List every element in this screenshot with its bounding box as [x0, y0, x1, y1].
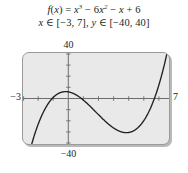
- term-linear-x: x: [119, 4, 124, 15]
- cubic-function-graph-figure: f(x) = x3 − 6x2 − x + 6 x ∈ [−3, 7], y ∈…: [0, 0, 188, 173]
- element-of-icon-x: ∈: [46, 17, 54, 28]
- equation-caption: f(x) = x3 − 6x2 − x + 6 x ∈ [−3, 7], y ∈…: [0, 4, 188, 30]
- domain-interval: [−3, 7],: [57, 17, 89, 28]
- exponent-3: 3: [79, 3, 83, 10]
- range-interval: [−40, 40]: [109, 17, 149, 28]
- plot-canvas: [23, 53, 169, 144]
- range-variable: y: [91, 17, 96, 28]
- domain-variable: x: [38, 17, 43, 28]
- minus-sign: −: [110, 4, 116, 15]
- element-of-icon-y: ∈: [99, 17, 107, 28]
- x-min-label: −3: [2, 91, 21, 102]
- y-min-label: −40: [0, 148, 137, 159]
- plus-six-constant: + 6: [126, 4, 140, 15]
- plot-frame: [22, 52, 170, 145]
- caption-line-function: f(x) = x3 − 6x2 − x + 6: [0, 4, 188, 17]
- paren-close: ): [59, 4, 63, 15]
- x-max-label: 7: [173, 91, 187, 102]
- minus-six-coefficient: − 6: [85, 4, 99, 15]
- y-max-label: 40: [0, 39, 137, 50]
- exponent-2: 2: [104, 3, 108, 10]
- caption-line-domain-range: x ∈ [−3, 7], y ∈ [−40, 40]: [0, 17, 188, 30]
- equals-sign: =: [65, 4, 71, 15]
